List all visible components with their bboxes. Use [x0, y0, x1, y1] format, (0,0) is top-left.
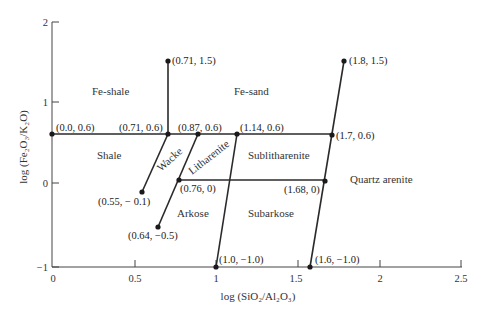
- region-shale: Shale: [97, 149, 122, 161]
- y-tick-1: 1: [43, 97, 48, 108]
- y-tick-minus1: −1: [37, 262, 48, 273]
- x-tick-2.5: 2.5: [454, 273, 467, 284]
- y-tick-2: 2: [43, 17, 48, 28]
- point-1.6-minus1.0: [307, 264, 312, 269]
- point-1.0-minus1.0: [213, 264, 218, 269]
- point-1.68-0: [322, 178, 327, 183]
- x-tick-0: 0: [50, 273, 55, 284]
- region-wacke: Wacke: [154, 145, 184, 174]
- region-quartz-arenite: Quartz arenite: [350, 173, 413, 185]
- region-fe-sand: Fe-sand: [234, 85, 269, 97]
- label-0.87-0.6: (0.87, 0.6): [178, 122, 222, 134]
- region-arkose: Arkose: [177, 207, 209, 219]
- label-1.68-0: (1.68, 0): [284, 184, 320, 196]
- y-tick-0: 0: [43, 178, 48, 189]
- point-1.14-0.6: [234, 131, 239, 136]
- label-1.0-minus1.0: (1.0, −1.0): [219, 254, 264, 266]
- x-tick-1: 1: [213, 273, 218, 284]
- label-0.76-0: (0.76, 0): [180, 183, 216, 195]
- region-litharenite: Litharenite: [186, 137, 232, 176]
- x-axis-title: log (SiO₂/Al₂O₃): [221, 290, 296, 303]
- x-tick-0.5: 0.5: [128, 273, 141, 284]
- line-quartz-arenite: [310, 61, 344, 267]
- label-0.64-minus0.5: (0.64, −0.5): [128, 230, 178, 242]
- x-tick-labels: 0 0.5 1 1.5 2 2.5: [50, 273, 467, 284]
- label-0.71-0.6: (0.71, 0.6): [119, 122, 163, 134]
- label-1.14-0.6: (1.14, 0.6): [240, 122, 284, 134]
- x-tick-1.5: 1.5: [289, 273, 302, 284]
- label-0.71-1.5: (0.71, 1.5): [172, 55, 216, 67]
- axes: [52, 22, 462, 267]
- label-1.7-0.6: (1.7, 0.6): [336, 130, 375, 142]
- point-1.8-1.5: [341, 58, 346, 63]
- region-sublitharenite: Sublitharenite: [248, 149, 310, 161]
- label-0-0.6: (0.0, 0.6): [56, 122, 95, 134]
- point-0.76-0: [176, 177, 181, 182]
- x-tick-2: 2: [377, 273, 382, 284]
- region-subarkose: Subarkose: [248, 207, 294, 219]
- point-0.64-minus0.5: [155, 224, 160, 229]
- y-tick-labels: 2 1 0 −1: [37, 17, 48, 273]
- label-0.55-minus0.1: (0.55, − 0.1): [98, 196, 151, 208]
- point-0.55-minus0.1: [139, 189, 144, 194]
- label-1.8-1.5: (1.8, 1.5): [349, 55, 388, 67]
- classification-diagram: 2 1 0 −1 0 0.5 1 1.5 2 2.5 log (SiO₂/Al₂…: [0, 0, 486, 311]
- label-1.6-minus1.0: (1.6, −1.0): [315, 254, 360, 266]
- region-fe-shale: Fe-shale: [92, 85, 129, 97]
- point-0-0.6: [49, 131, 54, 136]
- point-0.71-1.5: [165, 58, 170, 63]
- point-0.71-0.6: [165, 131, 170, 136]
- y-axis-title: log (Fe₂O₃/K₂O): [17, 110, 30, 184]
- point-1.7-0.6: [329, 132, 334, 137]
